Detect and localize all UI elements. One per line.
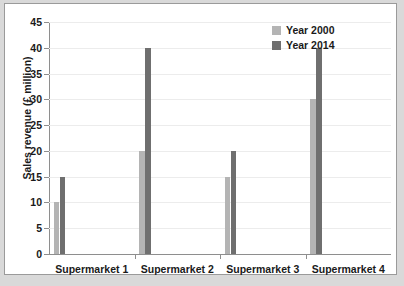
bar-group: [220, 22, 306, 254]
y-tick-label: 10: [30, 196, 42, 208]
bar-series-1: [310, 99, 316, 254]
bar-series-2: [60, 177, 66, 254]
chart-card: Sales revenue (£ million) 05101520253035…: [4, 3, 397, 275]
x-category-label: Supermarket 4: [312, 263, 385, 275]
bar-series-1: [225, 177, 231, 254]
bar-group: [49, 22, 135, 254]
bar-group: [306, 22, 392, 254]
plot-inner: 051015202530354045 Supermarket 1Supermar…: [49, 22, 391, 254]
bar-series-1: [139, 151, 145, 254]
legend-label: Year 2014: [286, 39, 334, 51]
y-tick-label: 0: [36, 248, 42, 260]
bar-series-2: [145, 48, 151, 254]
y-tick-label: 15: [30, 171, 42, 183]
bar-group: [135, 22, 221, 254]
x-category-label: Supermarket 3: [226, 263, 299, 275]
legend-item: Year 2014: [272, 39, 334, 51]
x-tick-mark: [306, 254, 307, 259]
y-tick-label: 45: [30, 16, 42, 28]
legend-item: Year 2000: [272, 24, 334, 36]
y-tick-label: 30: [30, 93, 42, 105]
bar-chart-figure: Sales revenue (£ million) 05101520253035…: [0, 0, 404, 286]
x-tick-mark: [135, 254, 136, 259]
y-tick-label: 40: [30, 42, 42, 54]
bar-series-1: [54, 202, 60, 254]
y-tick-label: 25: [30, 119, 42, 131]
bar-series-2: [231, 151, 237, 254]
y-tick-label: 5: [36, 222, 42, 234]
x-tick-mark: [220, 254, 221, 259]
x-category-label: Supermarket 2: [141, 263, 214, 275]
legend-swatch-icon: [272, 26, 281, 35]
y-tick-mark: [44, 254, 49, 255]
plot-area: 051015202530354045 Supermarket 1Supermar…: [49, 22, 391, 254]
x-category-label: Supermarket 1: [55, 263, 128, 275]
chart-legend: Year 2000Year 2014: [272, 24, 334, 51]
bar-series-2: [316, 48, 322, 254]
legend-label: Year 2000: [286, 24, 334, 36]
y-tick-label: 35: [30, 68, 42, 80]
legend-swatch-icon: [272, 41, 281, 50]
y-tick-label: 20: [30, 145, 42, 157]
